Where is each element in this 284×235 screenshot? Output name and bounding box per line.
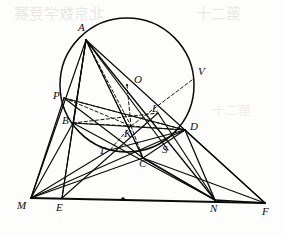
point-label-F: F [262, 206, 269, 217]
segment-ND [185, 130, 215, 200]
point-label-V: V [198, 66, 205, 77]
segment-DF [185, 130, 265, 203]
point-label-T: T [99, 145, 105, 156]
point-label-N: N [210, 203, 217, 214]
point-label-B: B [62, 115, 69, 126]
point-label-C: C [139, 158, 146, 169]
segment-CF [143, 158, 265, 203]
segment-midpoint-dot [121, 197, 125, 201]
diagram-canvas [0, 0, 284, 235]
segment-MD [31, 130, 185, 198]
point-label-S: S [162, 144, 168, 155]
circle-center-dot [126, 84, 128, 86]
point-label-A: A [78, 22, 85, 33]
point-label-P: P [53, 90, 60, 101]
point-label-M: M [17, 200, 26, 211]
geometry-figure: 北京数学竞赛 第二十 第二十 AOVPBLDKTSCMENF [0, 0, 284, 235]
dashed-segment-AK [86, 40, 131, 126]
point-label-E: E [56, 202, 63, 213]
segment-NL [158, 113, 215, 200]
point-label-K: K [124, 128, 131, 139]
point-label-L: L [152, 103, 158, 114]
point-label-D: D [190, 121, 198, 132]
dashed-segment-CN [143, 158, 215, 200]
point-label-O: O [134, 74, 142, 85]
